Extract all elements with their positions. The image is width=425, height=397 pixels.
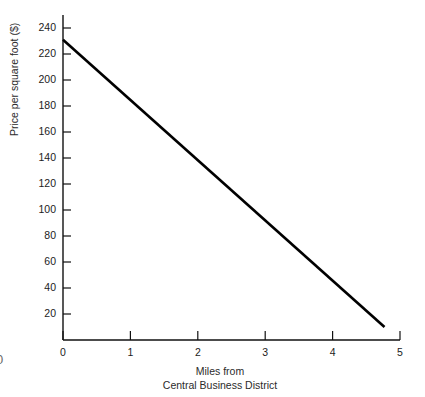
y-tick-label: 120 xyxy=(22,177,56,189)
y-tick-label: 200 xyxy=(22,73,56,85)
y-tick-label: 220 xyxy=(22,47,56,59)
x-tick-label: 0 xyxy=(51,346,75,358)
y-tick-label: 160 xyxy=(22,125,56,137)
y-tick-label: 180 xyxy=(22,99,56,111)
price-gradient-line xyxy=(63,40,384,327)
y-axis-ticks xyxy=(63,28,71,314)
y-tick-label: 100 xyxy=(22,203,56,215)
x-tick-label: 3 xyxy=(253,346,277,358)
x-tick-label: 4 xyxy=(321,346,345,358)
chart-figure: 0 Price per square foot ($) Miles from C… xyxy=(0,0,425,397)
plot-area xyxy=(0,0,425,397)
x-tick-label: 5 xyxy=(388,346,412,358)
y-tick-label: 40 xyxy=(22,281,56,293)
y-tick-label: 60 xyxy=(22,255,56,267)
x-tick-label: 1 xyxy=(118,346,142,358)
y-tick-label: 140 xyxy=(22,151,56,163)
y-tick-label: 240 xyxy=(22,21,56,33)
y-tick-label: 80 xyxy=(22,229,56,241)
y-tick-label: 20 xyxy=(22,307,56,319)
x-axis-ticks xyxy=(63,331,400,340)
axes xyxy=(63,15,400,340)
x-tick-label: 2 xyxy=(186,346,210,358)
data-series xyxy=(63,40,384,327)
